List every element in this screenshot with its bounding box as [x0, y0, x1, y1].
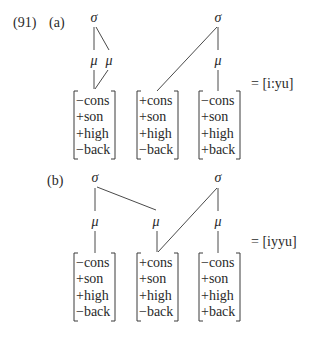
feature-value: +high [76, 288, 109, 303]
right-bracket [111, 91, 115, 159]
feature-value: +back [201, 142, 235, 157]
feature-matrix: −cons+son+high+back [199, 253, 240, 321]
mora-node: μ [151, 214, 159, 229]
mora-node: μ [90, 214, 98, 229]
syllable-node: σ [215, 10, 223, 25]
feature-value: −back [139, 304, 173, 319]
feature-value: −back [76, 304, 110, 319]
feature-value: +high [139, 126, 172, 141]
feature-matrix: +cons+son+high−back [137, 91, 178, 159]
example-parts: (a)σσμμμ−cons+son+high−back+cons+son+hig… [47, 10, 297, 321]
feature-value: −cons [201, 93, 235, 108]
syllable-node: σ [92, 170, 100, 185]
right-bracket [236, 91, 240, 159]
feature-value: −cons [76, 93, 110, 108]
feature-value: −back [76, 142, 110, 157]
feature-value: +high [76, 126, 109, 141]
part-b: (b)σσμμμ−cons+son+high−back+cons+son+hig… [47, 170, 297, 321]
association-line [157, 27, 217, 91]
feature-value: +cons [139, 93, 173, 108]
association-line [97, 187, 156, 210]
feature-matrix: −cons+son+high+back [199, 91, 240, 159]
feature-value: −cons [201, 255, 235, 270]
feature-value: +son [201, 109, 228, 124]
association-line [158, 188, 217, 252]
feature-value: −cons [76, 255, 110, 270]
right-bracket [174, 91, 178, 159]
part-a: (a)σσμμμ−cons+son+high−back+cons+son+hig… [49, 10, 294, 159]
feature-value: +son [139, 109, 166, 124]
feature-value: +high [201, 126, 234, 141]
feature-value: +son [139, 271, 166, 286]
feature-value: +son [76, 271, 103, 286]
syllable-node: σ [215, 170, 223, 185]
mora-node: μ [104, 53, 112, 68]
right-bracket [111, 253, 115, 321]
feature-value: +back [201, 304, 235, 319]
syllable-structure-figure: (91) (a)σσμμμ−cons+son+high−back+cons+so… [0, 0, 311, 338]
feature-value: +cons [139, 255, 173, 270]
mora-node: μ [213, 214, 221, 229]
feature-value: −back [139, 142, 173, 157]
part-label: (a) [49, 15, 65, 31]
feature-value: +high [201, 288, 234, 303]
mora-node: μ [89, 53, 97, 68]
association-line [96, 27, 109, 50]
feature-matrix: −cons+son+high−back [74, 253, 115, 321]
feature-value: +high [139, 288, 172, 303]
association-line [95, 70, 108, 89]
feature-matrix: +cons+son+high−back [137, 253, 178, 321]
part-label: (b) [47, 173, 64, 189]
phonetic-result: = [i:yu] [251, 76, 294, 91]
syllable-node: σ [91, 10, 99, 25]
mora-node: μ [213, 53, 221, 68]
example-number: (91) [13, 15, 37, 31]
feature-matrix: −cons+son+high−back [74, 91, 115, 159]
right-bracket [236, 253, 240, 321]
phonetic-result: = [iyyu] [251, 234, 297, 249]
feature-value: +son [76, 109, 103, 124]
feature-value: +son [201, 271, 228, 286]
right-bracket [174, 253, 178, 321]
linguistics-example-91: (91) (a)σσμμμ−cons+son+high−back+cons+so… [0, 0, 311, 338]
